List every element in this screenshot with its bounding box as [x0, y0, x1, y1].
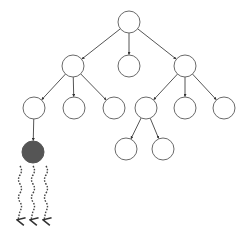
tree-node — [118, 55, 140, 77]
tree-node — [118, 11, 140, 33]
tree-node — [174, 55, 196, 77]
tree-edge — [154, 74, 178, 100]
wavy-arrow — [44, 166, 48, 220]
tree-node — [135, 97, 157, 119]
tree-node — [23, 97, 45, 119]
wavy-arrow — [18, 166, 22, 220]
tree-edge — [42, 74, 66, 100]
tree-node — [63, 97, 85, 119]
tree-edges — [33, 29, 216, 141]
tree-node — [152, 138, 174, 160]
tree-edge — [138, 29, 176, 59]
tree-edge — [192, 74, 216, 100]
tree-node — [174, 97, 196, 119]
tree-diagram — [0, 0, 246, 237]
tree-node — [213, 97, 235, 119]
tree-node — [62, 55, 84, 77]
tree-edge — [82, 29, 120, 59]
highlighted-tree-node — [22, 141, 44, 163]
tree-node — [115, 138, 137, 160]
tree-edge — [150, 118, 158, 138]
tree-edge — [131, 118, 141, 139]
wavy-arrow — [31, 166, 35, 220]
tree-node — [103, 97, 125, 119]
tree-edge — [81, 74, 106, 100]
wavy-arrows — [18, 166, 48, 220]
